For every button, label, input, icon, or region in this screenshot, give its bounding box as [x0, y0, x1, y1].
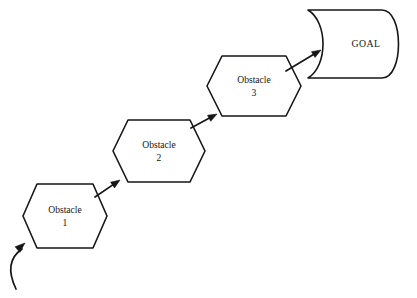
entry-arrow-head-icon — [15, 243, 25, 252]
obstacle-3-label-line1: Obstacle — [237, 74, 271, 85]
arrow-1-to-2-head-icon — [111, 180, 120, 188]
node-obstacle-1[interactable]: Obstacle 1 — [23, 184, 107, 248]
obstacle-1-label-line1: Obstacle — [48, 204, 82, 215]
diagram-svg: Obstacle 1 Obstacle 2 Obstacle 3 — [0, 0, 417, 298]
arrow-3-to-goal-head-icon — [312, 50, 322, 58]
obstacle-3-label-line2: 3 — [252, 87, 257, 98]
node-goal[interactable]: GOAL — [308, 10, 399, 78]
obstacle-1-label-line2: 1 — [63, 217, 68, 228]
connector-obstacle-1-to-obstacle-2 — [95, 180, 120, 197]
arrow-1-to-2-line — [95, 183, 115, 197]
arrow-2-to-3-line — [191, 117, 212, 128]
arrow-3-to-goal-line — [286, 53, 316, 71]
obstacle-1-hexagon[interactable] — [23, 184, 107, 248]
goal-label: GOAL — [352, 38, 381, 49]
entry-arrow-line — [11, 249, 22, 289]
obstacle-2-hexagon[interactable] — [113, 120, 205, 182]
arrow-2-to-3-head-icon — [208, 114, 218, 121]
obstacle-2-label-line2: 2 — [157, 152, 162, 163]
node-obstacle-3[interactable]: Obstacle 3 — [207, 56, 301, 116]
connector-obstacle-3-to-goal — [286, 50, 321, 71]
obstacle-2-label-line1: Obstacle — [142, 139, 176, 150]
diagram-canvas: Obstacle 1 Obstacle 2 Obstacle 3 — [0, 0, 417, 298]
obstacle-3-hexagon[interactable] — [207, 56, 301, 116]
node-obstacle-2[interactable]: Obstacle 2 — [113, 120, 205, 182]
connector-entry-arrow — [11, 243, 25, 289]
connector-obstacle-2-to-obstacle-3 — [191, 114, 217, 128]
